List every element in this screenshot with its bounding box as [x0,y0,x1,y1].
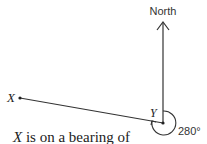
point-x-label: X [6,90,16,105]
north-label: North [150,5,177,17]
bearing-diagram: North X Y 280° [0,0,207,144]
point-y [161,121,164,124]
point-x [18,96,21,99]
caption: X is on a bearing of [13,129,130,144]
caption-text: is on a bearing of [22,129,130,144]
caption-var: X [13,129,22,144]
angle-label: 280° [178,125,201,137]
point-y-label: Y [150,106,158,120]
bearing-line [20,98,163,123]
